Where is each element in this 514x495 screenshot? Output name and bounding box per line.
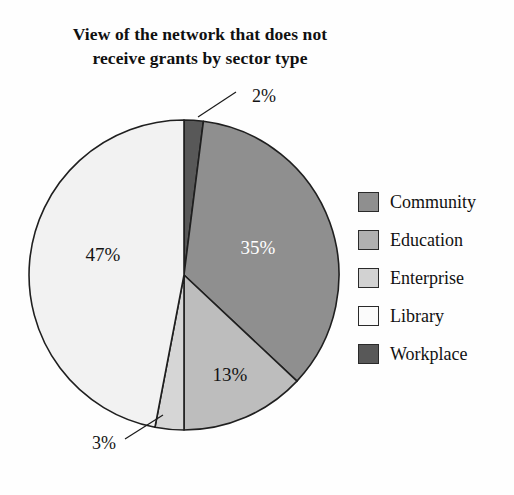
legend-swatch-education: [358, 230, 379, 250]
legend-item-workplace[interactable]: Workplace: [358, 335, 514, 373]
legend-label: Education: [390, 230, 463, 251]
chart-title-line-1: View of the network that does not: [40, 22, 360, 46]
pie-slices-group: [29, 120, 339, 430]
legend-item-enterprise[interactable]: Enterprise: [358, 259, 514, 297]
data-label-library: 47%: [86, 244, 121, 265]
legend-item-community[interactable]: Community: [358, 183, 514, 221]
data-label-workplace: 2%: [252, 86, 276, 106]
legend-swatch-library: [358, 306, 379, 326]
legend-swatch-workplace: [358, 344, 379, 364]
legend-swatch-enterprise: [358, 268, 379, 288]
pie-chart-figure: View of the network that does not receiv…: [0, 0, 514, 495]
pie-plot-area: 2%35%13%3%47%: [0, 60, 370, 495]
legend-swatch-community: [358, 192, 379, 212]
leader-line-workplace: [198, 92, 236, 117]
legend-label: Workplace: [390, 344, 468, 365]
pie-slice-library[interactable]: [29, 120, 184, 427]
legend-label: Enterprise: [390, 268, 464, 289]
data-label-enterprise: 3%: [92, 433, 116, 453]
data-label-community: 35%: [241, 237, 276, 258]
pie-svg: 2%35%13%3%47%: [0, 60, 370, 495]
chart-legend: CommunityEducationEnterpriseLibraryWorkp…: [358, 183, 514, 373]
legend-label: Community: [390, 192, 476, 213]
legend-item-library[interactable]: Library: [358, 297, 514, 335]
legend-label: Library: [390, 306, 444, 327]
data-label-education: 13%: [213, 364, 248, 385]
legend-item-education[interactable]: Education: [358, 221, 514, 259]
